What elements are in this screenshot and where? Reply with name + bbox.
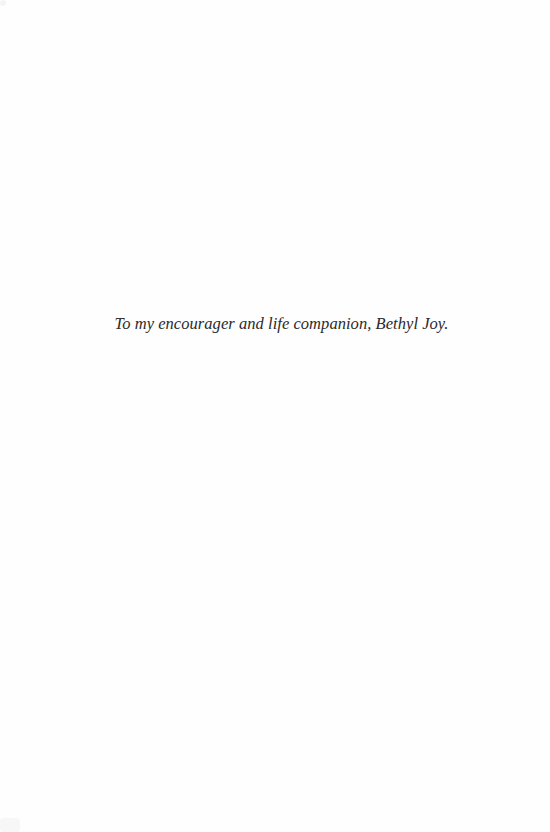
- book-page: To my encourager and life companion, Bet…: [0, 0, 550, 832]
- scan-artifact-bottom-left: [0, 818, 20, 832]
- scan-artifact-top-left: [0, 0, 6, 6]
- dedication-text: To my encourager and life companion, Bet…: [0, 313, 550, 335]
